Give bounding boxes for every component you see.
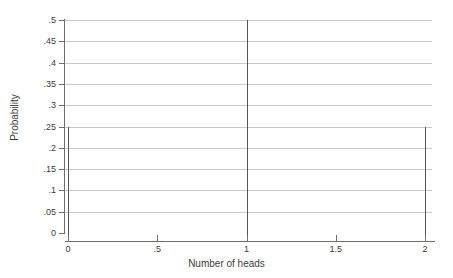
y-axis-tick-mark [59, 190, 65, 191]
gridline [65, 212, 432, 213]
y-axis-tick-mark [59, 20, 65, 21]
x-axis-tick-label: 2 [405, 244, 445, 254]
y-axis-tick-mark [59, 169, 65, 170]
chart-figure: 0.05.1.15.2.25.3.35.4.45.5 0.511.52 Prob… [0, 0, 453, 278]
y-axis-tick-label: .15 [0, 165, 56, 174]
spike-bar [247, 20, 248, 241]
gridline [65, 127, 432, 128]
gridline [65, 105, 432, 106]
x-axis-tick-mark [336, 235, 337, 241]
x-axis-tick-label: 1.5 [316, 244, 356, 254]
y-axis-tick-label: .05 [0, 208, 56, 217]
y-axis-tick-mark [59, 148, 65, 149]
y-axis-tick-label: .5 [0, 16, 56, 25]
y-axis-tick-mark [59, 63, 65, 64]
spike-bar [68, 127, 69, 242]
y-axis-tick-mark [59, 41, 65, 42]
x-axis-tick-mark [68, 235, 69, 241]
y-axis-tick-mark [59, 127, 65, 128]
x-axis-tick-label: 1 [227, 244, 267, 254]
gridline [65, 41, 432, 42]
x-axis-title: Number of heads [0, 258, 453, 269]
y-axis-tick-mark [59, 212, 65, 213]
y-axis-tick-mark [59, 105, 65, 106]
y-axis-tick-mark [59, 233, 65, 234]
gridline [65, 63, 432, 64]
x-axis-tick-mark [157, 235, 158, 241]
plot-area [65, 20, 432, 233]
gridline [65, 148, 432, 149]
y-axis-tick-label: 0 [0, 229, 56, 238]
y-axis-title: Probability [9, 73, 20, 163]
x-axis-tick-label: 0 [48, 244, 88, 254]
y-axis-tick-label: .4 [0, 59, 56, 68]
x-axis-tick-mark [247, 235, 248, 241]
x-axis-tick-mark [425, 235, 426, 241]
gridline [65, 190, 432, 191]
x-axis-tick-label: .5 [137, 244, 177, 254]
x-axis-line [65, 241, 435, 242]
y-axis-tick-mark [59, 84, 65, 85]
y-axis-tick-label: .45 [0, 37, 56, 46]
gridline [65, 20, 432, 21]
gridline [65, 169, 432, 170]
y-axis-tick-label: .1 [0, 186, 56, 195]
spike-bar [425, 127, 426, 242]
gridline [65, 84, 432, 85]
